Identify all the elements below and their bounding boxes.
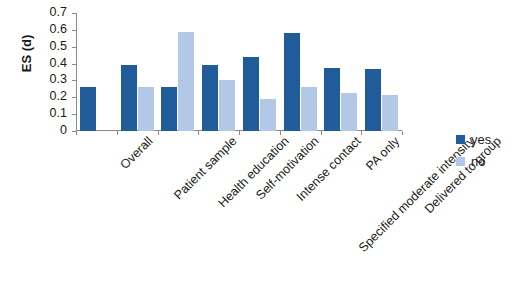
x-axis-tick — [239, 131, 240, 135]
x-axis-tick — [117, 131, 118, 135]
bar-yes — [284, 33, 300, 131]
legend-item-yes: yes — [456, 128, 491, 150]
x-axis-label: PA only — [363, 134, 402, 173]
bar-no — [178, 32, 194, 131]
bar-no — [341, 93, 357, 131]
x-axis-tick — [198, 131, 199, 135]
bar-no — [219, 80, 235, 131]
x-axis-tick — [402, 131, 403, 135]
bar-no — [260, 99, 276, 131]
y-axis-tick-label: 0.4 — [33, 56, 67, 70]
legend-swatch-icon — [456, 135, 465, 144]
bar-yes — [121, 65, 137, 131]
y-axis-tick-label: 0.5 — [33, 39, 67, 53]
y-axis-tick-label: 0.1 — [33, 106, 67, 120]
legend-label: yes — [471, 132, 491, 147]
bar-yes — [324, 68, 340, 131]
y-axis-title: ES (d) — [19, 14, 34, 94]
bar-no — [301, 87, 317, 131]
plot-area: 0.70.60.50.40.30.20.10 — [76, 13, 402, 131]
bar-yes — [202, 65, 218, 131]
y-axis-tick-label: 0.6 — [33, 22, 67, 36]
y-axis-tick-label: 0.7 — [33, 5, 67, 19]
bar-no — [138, 87, 154, 131]
x-axis-tick — [361, 131, 362, 135]
chart-legend: yesno — [456, 128, 491, 172]
x-axis-tick — [321, 131, 322, 135]
bar-chart: ES (d) 0.70.60.50.40.30.20.10 OverallPat… — [0, 0, 531, 302]
bar-no — [382, 95, 398, 131]
x-axis-tick — [158, 131, 159, 135]
y-axis-tick-label: 0 — [33, 123, 67, 137]
bars-layer — [76, 13, 402, 131]
bar-yes — [161, 87, 177, 131]
x-axis-label: Overall — [118, 134, 156, 172]
y-axis-tick-label: 0.3 — [33, 72, 67, 86]
bar-yes — [80, 87, 96, 131]
x-axis-tick — [76, 131, 77, 135]
bar-yes — [365, 69, 381, 131]
legend-label: no — [471, 154, 485, 169]
legend-item-no: no — [456, 150, 491, 172]
bar-yes — [243, 57, 259, 131]
legend-swatch-icon — [456, 157, 465, 166]
y-axis-tick-label: 0.2 — [33, 89, 67, 103]
